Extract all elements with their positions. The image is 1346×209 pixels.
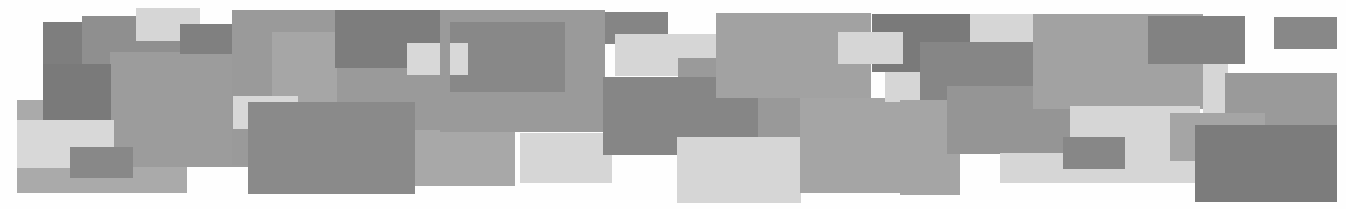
gray-rectangle xyxy=(70,147,133,178)
gray-rectangle xyxy=(1195,125,1337,202)
gray-rectangle xyxy=(1148,16,1245,64)
gray-rectangle xyxy=(677,137,801,203)
gray-rectangle xyxy=(1063,137,1125,169)
gray-rectangle xyxy=(838,32,903,64)
gray-rectangle xyxy=(1274,17,1337,49)
abstract-mosaic-canvas xyxy=(0,0,1346,209)
gray-rectangle xyxy=(450,43,468,75)
gray-rectangle xyxy=(248,102,415,194)
gray-rectangle xyxy=(520,133,612,183)
gray-rectangle xyxy=(970,14,1035,42)
gray-rectangle xyxy=(43,64,111,120)
gray-rectangle xyxy=(885,72,925,102)
gray-rectangle xyxy=(415,130,515,186)
